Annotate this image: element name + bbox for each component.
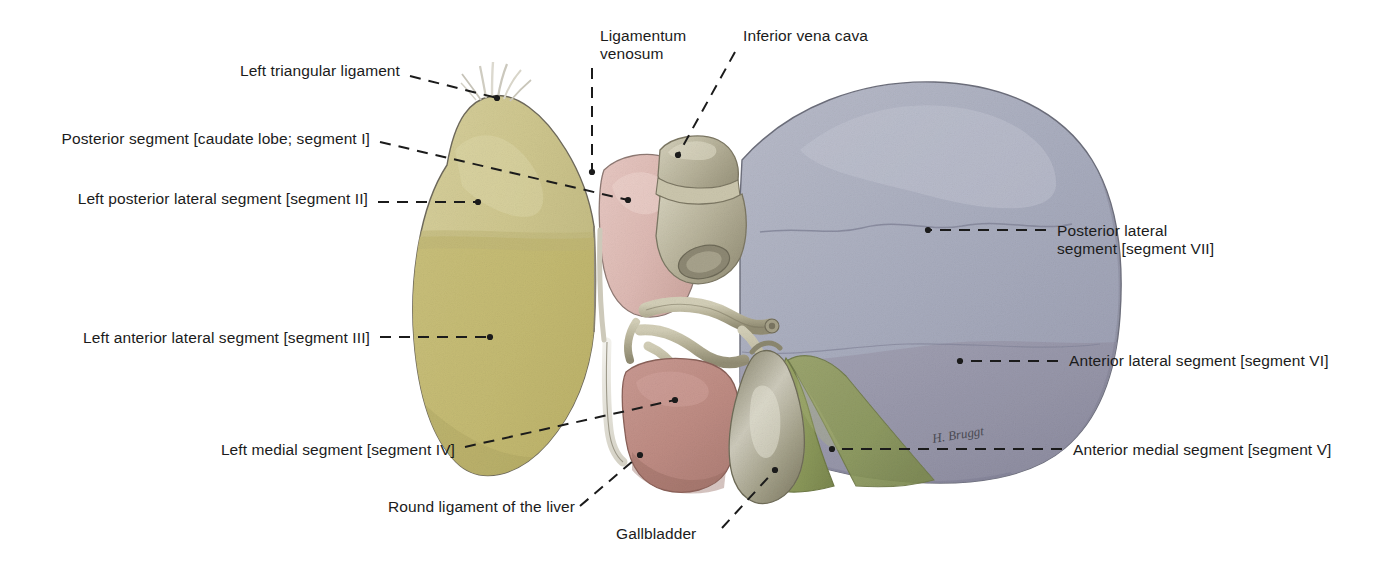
leader-tip-posterior-lateral-segment-segment-vii xyxy=(925,227,931,233)
label-round-ligament-of-the-liver: Round ligament of the liver xyxy=(388,498,575,516)
leader-tip-inferior-vena-cava xyxy=(675,152,681,158)
leader-tip-anterior-medial-segment-segment-v xyxy=(829,446,835,452)
label-posterior-segment-caudate-lobe-segment-i: Posterior segment [caudate lobe; segment… xyxy=(0,130,370,148)
label-left-posterior-lateral-segment-segment-ii: Left posterior lateral segment [segment … xyxy=(0,190,368,208)
anatomy-figure-page: H. Bruggt Left triangular ligamentPoster… xyxy=(0,0,1393,579)
leader-tip-left-medial-segment-segment-iv xyxy=(672,397,678,403)
label-left-triangular-ligament: Left triangular ligament xyxy=(0,62,400,80)
label-anterior-medial-segment-segment-v: Anterior medial segment [segment V] xyxy=(1073,441,1332,459)
label-gallbladder: Gallbladder xyxy=(616,525,696,543)
leader-tip-left-anterior-lateral-segment-segment-iii xyxy=(487,334,493,340)
leader-tip-round-ligament-of-the-liver xyxy=(637,452,643,458)
label-left-medial-segment-segment-iv: Left medial segment [segment IV] xyxy=(0,441,455,459)
leader-tip-anterior-lateral-segment-segment-vi xyxy=(957,358,963,364)
label-ligamentum-venosum: Ligamentum venosum xyxy=(600,27,686,63)
leader-tip-left-triangular-ligament xyxy=(494,95,500,101)
leader-tip-posterior-segment-caudate-lobe-segment-i xyxy=(625,197,631,203)
round-ligament xyxy=(606,342,623,462)
vessel-branch-small xyxy=(628,322,636,360)
left-lobe-midband xyxy=(400,230,610,251)
label-anterior-lateral-segment-segment-vi: Anterior lateral segment [segment VI] xyxy=(1069,352,1329,370)
label-posterior-lateral-segment-segment-vii: Posterior lateral segment [segment VII] xyxy=(1057,222,1214,258)
inferior-vena-cava-group xyxy=(656,136,746,284)
vessel-stump-lumen xyxy=(769,323,775,329)
leader-tip-left-posterior-lateral-segment-segment-ii xyxy=(475,199,481,205)
left-lobe-group xyxy=(400,95,610,500)
leader-tip-gallbladder xyxy=(772,467,778,473)
leader-tip-ligamentum-venosum xyxy=(589,169,595,175)
liver-illustration: H. Bruggt xyxy=(0,0,1393,579)
label-left-anterior-lateral-segment-segment-iii: Left anterior lateral segment [segment I… xyxy=(0,329,370,347)
leader-round-ligament-of-the-liver xyxy=(580,455,640,506)
quadrate-lobe-group xyxy=(622,359,738,494)
label-inferior-vena-cava: Inferior vena cava xyxy=(743,27,868,45)
